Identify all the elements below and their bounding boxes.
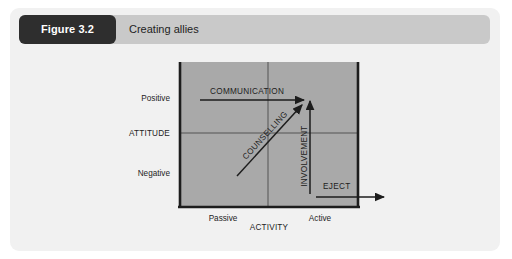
communication-label: COMMUNICATION [210,87,284,96]
x-axis-name: ACTIVITY [250,223,289,232]
x-axis-high-label: Active [309,214,332,223]
y-axis-low-label: Negative [138,169,171,178]
allies-matrix-diagram: Positive ATTITUDE Negative Passive ACTIV… [10,8,500,251]
y-axis-high-label: Positive [141,94,170,103]
figure-card: Figure 3.2 Creating allies Positive ATTI… [10,8,500,251]
y-axis-name: ATTITUDE [129,129,170,138]
x-axis-low-label: Passive [209,214,238,223]
diagram-canvas: Positive ATTITUDE Negative Passive ACTIV… [10,8,500,251]
eject-label: EJECT [323,182,350,191]
involvement-label: INVOLVEMENT [300,125,309,186]
